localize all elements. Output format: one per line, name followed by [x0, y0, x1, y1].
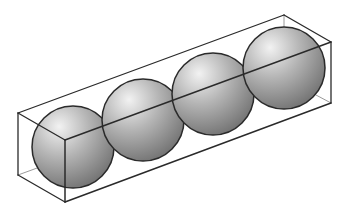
- diagram-canvas: Four spheres packed in a rectangular box: [0, 0, 347, 212]
- spheres-in-box-figure: [0, 0, 347, 212]
- sphere-4: [243, 27, 325, 109]
- spheres-group: [32, 27, 325, 188]
- sphere-3: [172, 53, 254, 135]
